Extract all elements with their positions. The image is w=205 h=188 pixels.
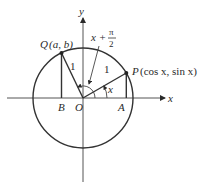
label-p-coords: (cos x, sin x) <box>140 65 197 78</box>
label-p: P <box>131 65 139 77</box>
point-p <box>124 71 128 75</box>
segment-op <box>83 73 126 98</box>
label-a: A <box>117 101 125 113</box>
point-q <box>60 51 64 55</box>
angle-pointer <box>89 46 99 84</box>
label-oq-length: 1 <box>70 60 76 72</box>
label-q-coords: (a, b) <box>49 38 73 51</box>
label-q: Q <box>40 38 48 50</box>
label-angle-x: x <box>107 83 113 95</box>
label-o: O <box>75 101 83 113</box>
angle-x-arc <box>104 86 107 98</box>
x-axis-label: x <box>167 92 173 104</box>
y-axis-label: y <box>78 5 84 17</box>
label-angle-x-plus: x + <box>90 31 106 43</box>
label-op-length: 1 <box>104 63 110 75</box>
label-b: B <box>58 101 65 113</box>
unit-circle-diagram: y x Q (a, b) P (cos x, sin x) O A B 1 1 … <box>0 0 205 188</box>
label-two: 2 <box>109 39 114 49</box>
label-pi: π <box>109 27 114 37</box>
